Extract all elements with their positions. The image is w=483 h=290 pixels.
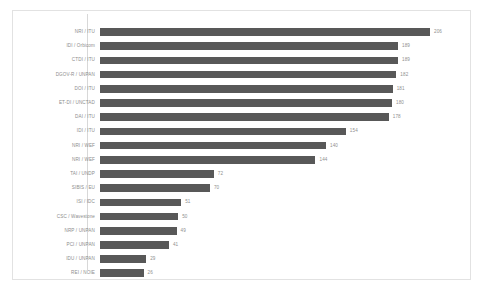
bar-category-label: DOI / ITU (26, 86, 100, 92)
bar-track: 180 (100, 96, 483, 110)
bar (100, 142, 326, 150)
bar-value-label: 144 (319, 157, 327, 163)
bar-category-label: IDU / UNPAN (26, 256, 100, 262)
bar-value-label: 154 (350, 128, 358, 134)
bar-track: 29 (100, 252, 483, 266)
bar-row: NRI / WEF140 (26, 139, 483, 153)
bar (100, 199, 181, 207)
bar (100, 184, 210, 192)
bar-category-label: NRI / WEF (26, 157, 100, 163)
bar-value-label: 182 (400, 72, 408, 78)
bar-row: PCI / UNPAN41 (26, 238, 483, 252)
bar-value-label: 180 (396, 100, 404, 106)
bar-value-label: 51 (185, 199, 190, 205)
bar-row: NRI / ITU206 (26, 25, 483, 39)
bar-category-label: IDI / Orbicom (26, 43, 100, 49)
bar-category-label: CTDI / ITU (26, 57, 100, 63)
bar-track: 140 (100, 139, 483, 153)
bar (100, 156, 315, 164)
bar-row: CTDI / ITU189 (26, 53, 483, 67)
bar (100, 269, 144, 277)
bar-value-label: 189 (402, 43, 410, 49)
bar-track: 51 (100, 195, 483, 209)
bar-track: 189 (100, 39, 483, 53)
bar-category-label: ISI / IDC (26, 199, 100, 205)
bar-track: 72 (100, 167, 483, 181)
bar-rows-container: NRI / ITU206IDI / Orbicom189CTDI / ITU18… (26, 25, 483, 288)
bar (100, 170, 214, 178)
plot-frame: NRI / ITU206IDI / Orbicom189CTDI / ITU18… (12, 10, 471, 280)
bar-value-label: 206 (434, 29, 442, 35)
bar-value-label: 72 (218, 171, 223, 177)
bar-row: IDI / Orbicom189 (26, 39, 483, 53)
bar-track: 41 (100, 238, 483, 252)
bar (100, 99, 392, 107)
bar-row: SIBIS / EU70 (26, 181, 483, 195)
bar-track: 189 (100, 53, 483, 67)
bar (100, 71, 396, 79)
bar-category-label: NRI / WEF (26, 143, 100, 149)
bar-category-label: NRI / ITU (26, 29, 100, 35)
bar-category-label: ET-DI / UNCTAD (26, 100, 100, 106)
bar-row: DAI / ITU178 (26, 110, 483, 124)
bar-value-label: 29 (150, 256, 155, 262)
bar-category-label: CSC / Wavestone (26, 214, 100, 220)
bar-row: CSC / Wavestone50 (26, 209, 483, 223)
bar-value-label: 140 (330, 143, 338, 149)
bar (100, 85, 393, 93)
bar-value-label: 41 (173, 242, 178, 248)
bar-row: NRP / UNPAN49 (26, 224, 483, 238)
bar-chart-figure: NRI / ITU206IDI / Orbicom189CTDI / ITU18… (0, 0, 483, 290)
bar-category-label: DGOV-R / UNPAN (26, 72, 100, 78)
bar-track: 181 (100, 82, 483, 96)
bar-value-label: 189 (402, 57, 410, 63)
bar-category-label: REI / NOIE (26, 270, 100, 276)
bar-category-label: TAI / UNDP (26, 171, 100, 177)
bar-value-label: 178 (393, 114, 401, 120)
bar (100, 128, 346, 136)
bar-category-label: DAI / ITU (26, 114, 100, 120)
bar-row: TAI / UNDP72 (26, 167, 483, 181)
bar (100, 113, 389, 121)
bar-value-label: 49 (181, 228, 186, 234)
bar-track: 178 (100, 110, 483, 124)
bar-row: DGOV-R / UNPAN182 (26, 68, 483, 82)
bar-track: 182 (100, 68, 483, 82)
bar (100, 213, 178, 221)
bar-track: 70 (100, 181, 483, 195)
bar-value-label: 26 (148, 270, 153, 276)
bar-row: NRI / WEF144 (26, 153, 483, 167)
bar (100, 42, 398, 50)
bar-track: 26 (100, 266, 483, 280)
bar-category-label: SIBIS / EU (26, 185, 100, 191)
bar-value-label: 181 (397, 86, 405, 92)
bar (100, 28, 430, 36)
bar-row: ISI / IDC51 (26, 195, 483, 209)
bar-row: IDI / ITU154 (26, 124, 483, 138)
bar-row: DOI / ITU181 (26, 82, 483, 96)
bar-track: 206 (100, 25, 483, 39)
bar-category-label: NRP / UNPAN (26, 228, 100, 234)
bar-track: 49 (100, 224, 483, 238)
bar-track: 144 (100, 153, 483, 167)
bar (100, 241, 169, 249)
bar-value-label: 50 (182, 214, 187, 220)
bar (100, 255, 146, 263)
bar-row: REI / NOIE26 (26, 266, 483, 280)
bar-track: 50 (100, 209, 483, 223)
bar-category-label: PCI / UNPAN (26, 242, 100, 248)
bar-row: ET-DI / UNCTAD180 (26, 96, 483, 110)
bar-row: IDU / UNPAN29 (26, 252, 483, 266)
bar (100, 57, 398, 65)
bar-category-label: IDI / ITU (26, 128, 100, 134)
bar (100, 227, 177, 235)
bar-value-label: 70 (214, 185, 219, 191)
bar-track: 154 (100, 124, 483, 138)
